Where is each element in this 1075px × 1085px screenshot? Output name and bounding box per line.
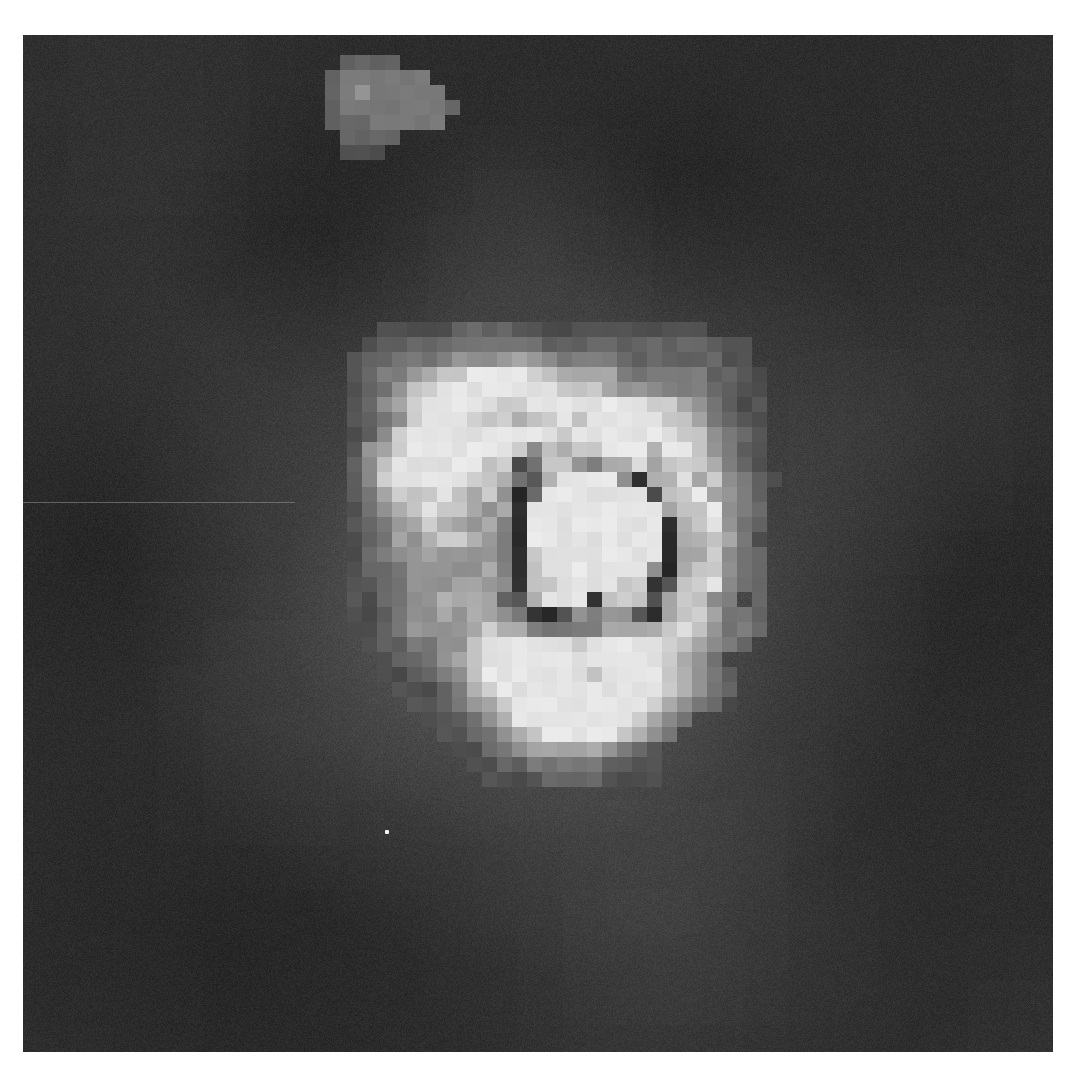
bright-speck bbox=[385, 830, 389, 834]
cell-body bbox=[23, 35, 1053, 1052]
scanline-artifact bbox=[23, 502, 295, 503]
micrograph-image bbox=[23, 35, 1053, 1052]
